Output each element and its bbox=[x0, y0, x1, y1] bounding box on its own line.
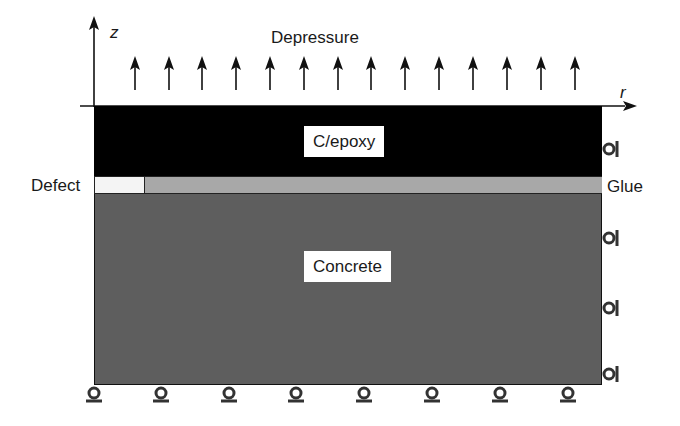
roller-support-icon bbox=[604, 300, 617, 316]
roller-support-icon bbox=[560, 388, 576, 401]
bottom-supports bbox=[86, 388, 576, 401]
roller-support-icon bbox=[424, 388, 440, 401]
supports-canvas bbox=[0, 0, 680, 426]
roller-support-icon bbox=[492, 388, 508, 401]
roller-support-icon bbox=[288, 388, 304, 401]
roller-support-icon bbox=[153, 388, 169, 401]
roller-support-icon bbox=[604, 366, 617, 382]
right-supports bbox=[604, 141, 617, 382]
roller-support-icon bbox=[356, 388, 372, 401]
roller-support-icon bbox=[604, 230, 617, 246]
roller-support-icon bbox=[221, 388, 237, 401]
roller-support-icon bbox=[604, 141, 617, 157]
roller-support-icon bbox=[86, 388, 102, 401]
